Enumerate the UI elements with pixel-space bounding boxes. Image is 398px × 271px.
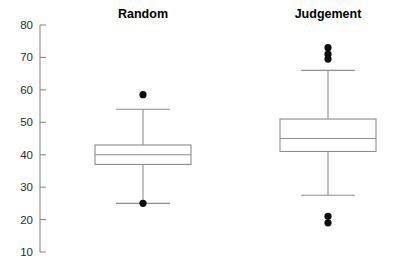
y-axis-tick-label: 80 [20,19,33,31]
outlier-point [324,55,331,62]
panel-titles: RandomJudgement [118,7,362,21]
boxplot-panels [95,44,376,226]
panel-title-random: Random [118,7,168,21]
y-axis-tick-label: 40 [20,149,33,161]
boxplot-canvas: 1020304050607080 RandomJudgement [0,0,398,271]
boxplot-judgement [280,44,376,226]
y-axis-tick-label: 50 [20,116,33,128]
outlier-point [139,200,146,207]
y-axis: 1020304050607080 [20,19,46,258]
outlier-point [324,219,331,226]
y-axis-tick-label: 10 [20,246,33,258]
outlier-point [324,213,331,220]
y-axis-tick-label: 70 [20,51,33,63]
iqr-box [280,119,376,151]
outlier-point [139,91,146,98]
boxplot-random [95,91,191,207]
y-axis-tick-label: 20 [20,214,33,226]
boxplot-figure: 1020304050607080 RandomJudgement [0,0,398,271]
panel-title-judgement: Judgement [295,7,363,21]
y-axis-tick-label: 30 [20,181,33,193]
outlier-point [324,44,331,51]
y-axis-tick-label: 60 [20,84,33,96]
